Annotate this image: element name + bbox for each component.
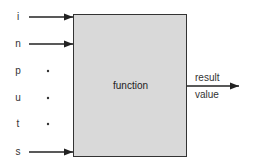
- output-label-result: result: [195, 72, 219, 84]
- input-label-i: i: [14, 11, 22, 23]
- ellipsis-dot-u: [47, 97, 49, 99]
- input-label-p: p: [14, 65, 22, 77]
- input-label-u: u: [14, 92, 22, 104]
- input-label-n: n: [14, 38, 22, 50]
- function-label: function: [73, 80, 188, 91]
- ellipsis-dot-p: [47, 70, 49, 72]
- ellipsis-dot-t: [47, 123, 49, 125]
- input-label-s: s: [14, 146, 22, 158]
- output-label-value: value: [195, 89, 219, 101]
- input-label-t: t: [14, 118, 22, 130]
